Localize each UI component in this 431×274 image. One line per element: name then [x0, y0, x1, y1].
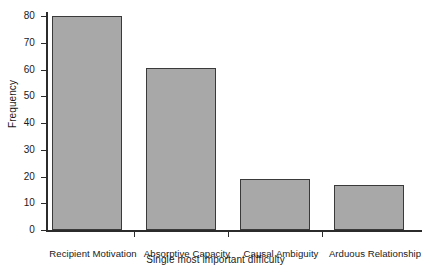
bar: [240, 179, 310, 230]
y-axis-tick: 80: [41, 16, 48, 17]
x-axis-title: Single most important difficulty: [0, 253, 431, 266]
plot-area: 01020304050607080 Recipient MotivationAb…: [46, 12, 422, 232]
y-axis-tick: 40: [41, 123, 48, 124]
y-axis-tick-label: 40: [9, 116, 35, 129]
y-axis-tick: 60: [41, 70, 48, 71]
y-axis-tick: 30: [41, 150, 48, 151]
y-axis-tick-label: 30: [9, 143, 35, 156]
y-axis-tick-label: 70: [9, 36, 35, 49]
y-axis-title: Frequency: [6, 64, 20, 144]
x-axis-line: [46, 230, 422, 232]
bar: [334, 185, 404, 230]
y-axis-line: [46, 12, 48, 232]
y-axis-tick: 0: [41, 230, 48, 231]
bar-chart: Frequency 01020304050607080 Recipient Mo…: [0, 0, 431, 274]
y-axis-tick-label: 0: [9, 223, 35, 236]
y-axis-tick: 50: [41, 96, 48, 97]
y-axis-tick: 10: [41, 203, 48, 204]
y-axis-tick-label: 10: [9, 196, 35, 209]
y-axis-tick: 20: [41, 177, 48, 178]
x-axis-tick: [228, 231, 229, 237]
y-axis-tick: 70: [41, 43, 48, 44]
y-axis-tick-label: 20: [9, 170, 35, 183]
y-axis-tick-label: 60: [9, 63, 35, 76]
y-axis-tick-label: 50: [9, 89, 35, 102]
bar: [146, 68, 216, 230]
bar: [52, 16, 122, 230]
x-axis-tick: [134, 231, 135, 237]
y-axis-tick-label: 80: [9, 9, 35, 22]
x-axis-tick: [322, 231, 323, 237]
